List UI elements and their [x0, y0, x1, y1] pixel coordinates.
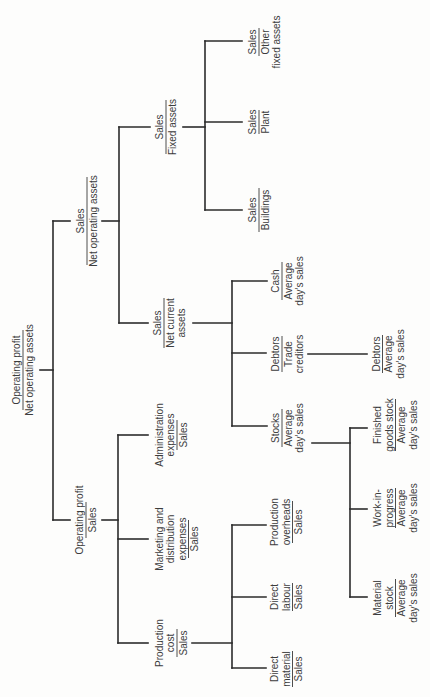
node-sales-plant: Sales Plant	[247, 109, 271, 134]
denominator-text: Sales	[293, 656, 304, 681]
node-sales-net-current-assets: Sales Net current assets	[152, 298, 187, 348]
node-direct-material-sales: Direct material Sales	[269, 651, 304, 687]
denominator-text: Sales	[178, 630, 189, 655]
denominator-text: Trade	[283, 341, 294, 367]
node-administration-expenses-sales: Administration expenses Sales	[154, 403, 189, 466]
numerator-text: Sales	[247, 197, 258, 222]
denominator-text: Average	[283, 262, 294, 300]
numerator-text: expenses	[165, 414, 176, 457]
denominator-text: Buildings	[260, 190, 271, 231]
node-debtors-average-days-sales: Debtors Average day’s sales	[371, 329, 406, 378]
node-operating-profit-net-operating-assets: Operating profit Net operating assets	[11, 324, 35, 416]
node-debtors-trade-creditors: Debtors Trade creditors	[270, 335, 305, 373]
numerator-text: goods stock	[384, 397, 395, 451]
denominator-text: creditors	[294, 335, 305, 373]
denominator-text: Average	[283, 409, 294, 447]
node-marketing-distribution-expenses-sales: Marketing and distribution expenses Sale…	[154, 507, 201, 570]
numerator-text: Operating profit	[11, 335, 22, 404]
numerator-text: overheads	[281, 499, 292, 546]
node-stocks-average-days-sales: Stocks Average day’s sales	[270, 403, 305, 452]
numerator-text: labour	[281, 582, 292, 610]
node-production-overheads-sales: Production overheads Sales	[269, 498, 304, 546]
numerator-text: Operating profit	[74, 485, 85, 554]
node-work-in-progress-average-days-sales: Work-in- progress Average day’s sales	[372, 483, 419, 532]
numerator-text: Marketing and	[154, 507, 165, 570]
numerator-text: Debtors	[270, 336, 281, 371]
numerator-text: Stocks	[270, 413, 281, 443]
numerator-text: Sales	[247, 109, 258, 134]
denominator-text: Net operating assets	[24, 324, 35, 416]
denominator-text: day’s sales	[294, 256, 305, 305]
node-finished-goods-stock-average-days-sales: Finished goods stock Average day’s sales	[372, 397, 419, 451]
numerator-text: Finished	[372, 406, 383, 444]
node-direct-labour-sales: Direct labour Sales	[269, 582, 304, 611]
numerator-text: material	[281, 651, 292, 687]
denominator-text: Sales	[178, 422, 189, 447]
denominator-text: Sales	[293, 509, 304, 534]
connectors	[40, 41, 367, 668]
numerator-text: progress	[384, 489, 395, 528]
denominator-text: Sales	[293, 584, 304, 609]
numerator-text: Work-in-	[372, 489, 383, 527]
numerator-text: Sales	[152, 310, 163, 335]
numerator-text: distribution	[165, 515, 176, 563]
numerator-text: Direct	[269, 584, 280, 610]
numerator-text: Production	[154, 619, 165, 667]
denominator-text: day’s sales	[408, 483, 419, 532]
denominator-text: Net current	[165, 298, 176, 348]
numerator-text: cost	[165, 634, 176, 653]
denominator-text: fixed assets	[271, 16, 282, 69]
numerator-text: Sales	[154, 114, 165, 139]
numerator-text: Cash	[270, 269, 281, 292]
denominator-text: Average	[383, 335, 394, 373]
numerator-text: Sales	[75, 208, 86, 233]
node-sales-net-operating-assets: Sales Net operating assets	[75, 175, 99, 267]
node-sales-fixed-assets: Sales Fixed assets	[154, 99, 178, 155]
numerator-text: Direct	[269, 656, 280, 682]
numerator-text: Material	[372, 580, 383, 616]
denominator-text: day’s sales	[395, 329, 406, 378]
numerator-text: expenses	[177, 518, 188, 561]
denominator-text: day’s sales	[294, 403, 305, 452]
node-material-stock-average-days-sales: Material stock Average day’s sales	[372, 573, 419, 622]
denominator-text: assets	[176, 309, 187, 338]
denominator-text: Average	[396, 579, 407, 617]
denominator-text: Average	[396, 406, 407, 444]
denominator-text: Sales	[87, 507, 98, 532]
numerator-text: Production	[269, 498, 280, 546]
numerator-text: stock	[384, 585, 395, 609]
node-sales-buildings: Sales Buildings	[247, 188, 271, 232]
ratio-tree-diagram: Operating profit Net operating assets Sa…	[0, 0, 430, 697]
denominator-text: Plant	[260, 110, 271, 133]
denominator-text: day’s sales	[408, 573, 419, 622]
numerator-text: Debtors	[371, 336, 382, 371]
denominator-text: Other	[260, 29, 271, 55]
denominator-text: Net operating assets	[88, 175, 99, 267]
denominator-text: day’s sales	[408, 400, 419, 449]
denominator-text: Sales	[189, 526, 200, 551]
node-cash-average-days-sales: Cash Average day’s sales	[270, 256, 305, 305]
node-operating-profit-sales: Operating profit Sales	[74, 485, 98, 554]
numerator-text: Sales	[247, 29, 258, 54]
node-sales-other-fixed-assets: Sales Other fixed assets	[247, 16, 282, 69]
denominator-text: Fixed assets	[167, 99, 178, 155]
node-production-cost-sales: Production cost Sales	[154, 619, 189, 667]
numerator-text: Administration	[154, 403, 165, 466]
denominator-text: Average	[396, 489, 407, 527]
